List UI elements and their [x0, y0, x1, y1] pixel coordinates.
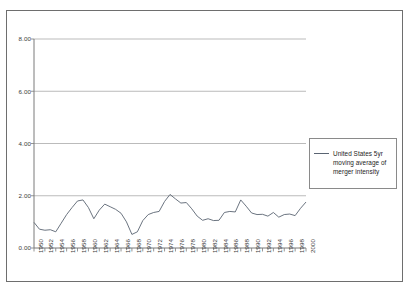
x-tick-label-1950: 1950 — [37, 239, 44, 253]
legend-entry-label: United States 5yr moving average of merg… — [333, 149, 396, 177]
x-tick-label-1952: 1952 — [47, 239, 54, 253]
y-tick-label-6.00: 6.00 — [7, 88, 31, 95]
legend-line-swatch-icon — [314, 153, 329, 154]
series-line-united-states-merger-intensity — [34, 194, 306, 234]
x-tick-label-2000: 2000 — [309, 239, 316, 253]
x-tick-label-1960: 1960 — [91, 239, 98, 253]
x-tick-label-1992: 1992 — [265, 239, 272, 253]
chart-plot-area: 0.002.004.006.008.00 1950195219541956195… — [7, 11, 404, 283]
x-tick-label-1980: 1980 — [200, 239, 207, 253]
chart-legend: United States 5yr moving average of merg… — [309, 138, 397, 189]
x-tick-label-1968: 1968 — [135, 239, 142, 253]
x-tick-label-1966: 1966 — [124, 239, 131, 253]
x-tick-label-1978: 1978 — [189, 239, 196, 253]
x-tick-label-1964: 1964 — [113, 239, 120, 253]
y-tick-label-2.00: 2.00 — [7, 192, 31, 199]
x-tick-label-1970: 1970 — [145, 239, 152, 253]
y-tick-label-0.00: 0.00 — [7, 244, 31, 251]
x-tick-label-1972: 1972 — [156, 239, 163, 253]
x-tick-label-1982: 1982 — [211, 239, 218, 253]
x-tick-label-1976: 1976 — [178, 239, 185, 253]
x-tick-label-1988: 1988 — [243, 239, 250, 253]
figure-frame: 0.002.004.006.008.00 1950195219541956195… — [6, 10, 403, 282]
gridlines-group — [34, 39, 306, 196]
y-tick-label-8.00: 8.00 — [7, 35, 31, 42]
x-tick-label-1956: 1956 — [69, 239, 76, 253]
x-tick-label-1954: 1954 — [58, 239, 65, 253]
x-tick-label-1986: 1986 — [232, 239, 239, 253]
legend-entry: United States 5yr moving average of merg… — [314, 149, 396, 177]
x-tick-label-1994: 1994 — [276, 239, 283, 253]
x-tick-label-1998: 1998 — [298, 239, 305, 253]
x-tick-label-1996: 1996 — [287, 239, 294, 253]
x-tick-label-1962: 1962 — [102, 239, 109, 253]
y-tick-label-4.00: 4.00 — [7, 140, 31, 147]
x-tick-label-1974: 1974 — [167, 239, 174, 253]
x-tick-label-1984: 1984 — [222, 239, 229, 253]
x-tick-label-1990: 1990 — [254, 239, 261, 253]
x-tick-label-1958: 1958 — [80, 239, 87, 253]
